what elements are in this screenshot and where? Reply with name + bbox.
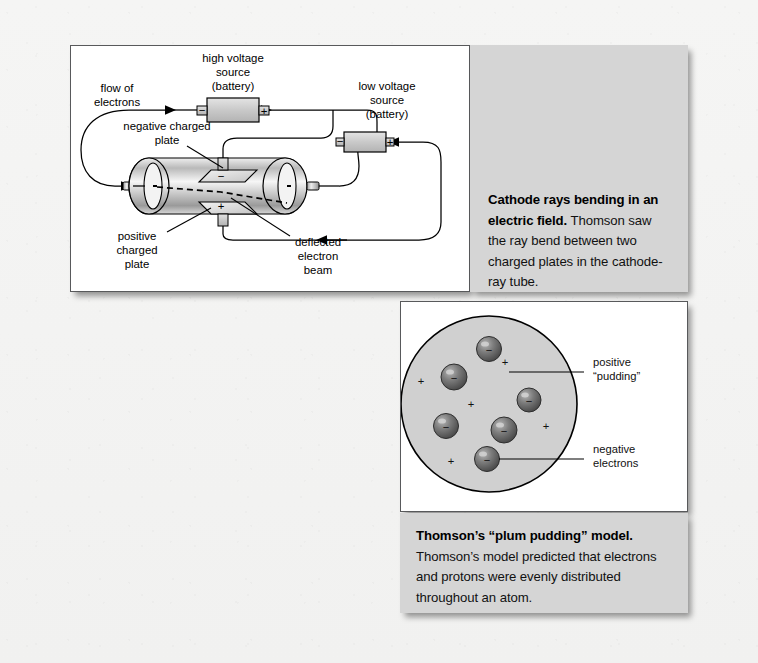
electron-minus: − <box>526 395 533 407</box>
label-negative-plate-line1: negative charged <box>123 120 210 132</box>
plum-pudding-caption-text: Thomson’s “plum pudding” model. Thomson’… <box>416 526 672 608</box>
plum-pudding-caption-title: Thomson’s “plum pudding” model. <box>416 528 633 543</box>
hv-battery-plus: + <box>261 105 268 117</box>
electron-minus: − <box>501 425 508 437</box>
electron-minus: − <box>451 372 458 384</box>
proton-plus: + <box>502 356 509 368</box>
cathode-ray-caption-text: Cathode rays bending in an electric fiel… <box>488 190 670 293</box>
cathode-ray-tube-figure: − + − + − + <box>70 45 470 292</box>
lv-battery-minus: − <box>337 135 344 147</box>
label-low-voltage-line2: source <box>370 94 404 106</box>
label-low-voltage-line1: low voltage <box>359 80 416 92</box>
label-deflected-beam-line1: deflected <box>295 236 341 248</box>
proton-plus: + <box>468 398 475 410</box>
electron: − <box>441 364 467 390</box>
label-negative-electrons-line1: negative <box>593 443 635 455</box>
proton-plus: + <box>543 420 550 432</box>
lv-battery-plus: + <box>387 136 394 148</box>
label-high-voltage-line2: source <box>216 66 250 78</box>
label-positive-plate-line3: plate <box>125 258 150 270</box>
plate-minus-sign: − <box>218 170 225 182</box>
plate-plus-sign: + <box>218 200 225 212</box>
label-deflected-beam-line3: beam <box>304 264 333 276</box>
label-negative-electrons-line2: electrons <box>593 457 639 469</box>
label-flow-of-electrons-line1: flow of <box>101 82 135 94</box>
low-voltage-battery: − + <box>336 132 394 152</box>
plum-pudding-caption-body: Thomson’s model predicted that electrons… <box>416 549 657 605</box>
electron-minus: − <box>484 454 491 466</box>
label-positive-plate-line2: charged <box>116 244 157 256</box>
label-high-voltage-line1: high voltage <box>202 52 263 64</box>
atom-text-labels: positive “pudding” negative electrons <box>593 356 641 469</box>
cathode-ray-tube-diagram: − + − + − + <box>71 46 469 291</box>
label-flow-of-electrons-line2: electrons <box>94 96 141 108</box>
label-positive-pudding-line2: “pudding” <box>593 370 641 382</box>
electron: − <box>475 447 500 472</box>
plum-pudding-figure: + + + + + − − − <box>400 301 688 512</box>
label-positive-pudding-line1: positive <box>593 356 631 368</box>
label-high-voltage-line3: (battery) <box>212 80 255 92</box>
label-deflected-beam-line2: electron <box>298 250 339 262</box>
proton-plus: + <box>418 375 425 387</box>
label-negative-plate-line2: plate <box>155 134 180 146</box>
hv-battery-minus: − <box>199 104 206 116</box>
electron: − <box>517 388 541 412</box>
high-voltage-battery: − + <box>197 98 269 122</box>
label-low-voltage-line3: (battery) <box>366 108 409 120</box>
electron: − <box>491 417 517 443</box>
plum-pudding-diagram: + + + + + − − − <box>401 302 687 511</box>
electron: − <box>477 337 502 362</box>
electron: − <box>434 414 459 439</box>
electron-minus: − <box>486 344 493 356</box>
electron-minus: − <box>443 421 450 433</box>
proton-plus: + <box>448 455 455 467</box>
cathode-ray-caption-panel: Cathode rays bending in an electric fiel… <box>470 45 688 292</box>
label-positive-plate-line1: positive <box>118 230 157 242</box>
plum-pudding-caption-panel: Thomson’s “plum pudding” model. Thomson’… <box>400 513 688 613</box>
